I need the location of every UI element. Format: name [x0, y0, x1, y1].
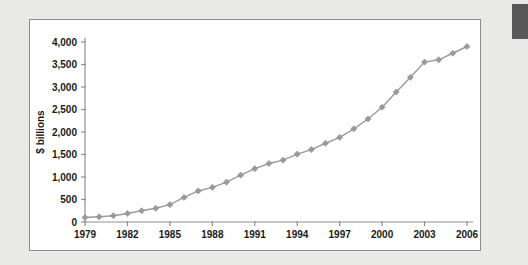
series-data-point — [322, 140, 328, 146]
series-data-point — [280, 157, 286, 163]
y-axis-tick-label: 500 — [60, 194, 77, 205]
series-data-point — [181, 194, 187, 200]
series-data-point — [110, 213, 116, 219]
series-data-point — [464, 43, 470, 49]
y-axis-title: $ billions — [35, 110, 46, 154]
y-axis-tick-label: 0 — [71, 217, 77, 228]
y-axis-tick-label: 1,500 — [52, 149, 77, 160]
x-axis-tick-label: 1979 — [74, 229, 97, 240]
series-data-point — [167, 202, 173, 208]
x-axis-tick-label: 1982 — [116, 229, 139, 240]
series-data-point — [266, 160, 272, 166]
series-data-point — [308, 146, 314, 152]
data-series-group — [82, 43, 470, 220]
y-axis-tick-label: 2,500 — [52, 104, 77, 115]
y-axis-title-text: $ billions — [35, 110, 46, 154]
series-data-point — [138, 208, 144, 214]
line-chart-svg: 05001,0001,5002,0002,5003,0003,5004,000 … — [30, 20, 480, 250]
x-axis-tick-label: 1988 — [201, 229, 224, 240]
y-axis-tick-label: 3,000 — [52, 82, 77, 93]
x-axis-tick-label: 1994 — [286, 229, 309, 240]
chart-figure-panel: 05001,0001,5002,0002,5003,0003,5004,000 … — [29, 19, 481, 251]
y-axis-tick-label: 4,000 — [52, 37, 77, 48]
series-data-point — [223, 179, 229, 185]
series-data-point — [82, 214, 88, 220]
chart-plot-area: 05001,0001,5002,0002,5003,0003,5004,000 … — [30, 20, 480, 250]
x-axis-tick-label: 1985 — [159, 229, 182, 240]
y-axis-tick-label: 1,000 — [52, 172, 77, 183]
series-data-point — [436, 57, 442, 63]
series-data-point — [124, 210, 130, 216]
page-background: 05001,0001,5002,0002,5003,0003,5004,000 … — [0, 0, 528, 265]
x-axis-tick-label: 2003 — [413, 229, 436, 240]
y-axis-tick-label: 2,000 — [52, 127, 77, 138]
series-data-point — [209, 184, 215, 190]
y-axis: 05001,0001,5002,0002,5003,0003,5004,000 — [52, 37, 86, 228]
series-data-point — [450, 50, 456, 56]
series-data-point — [195, 188, 201, 194]
page-corner-marker — [512, 4, 528, 39]
series-data-point — [238, 172, 244, 178]
x-axis-tick-label: 1997 — [329, 229, 352, 240]
series-data-point — [96, 214, 102, 220]
series-line — [85, 47, 467, 218]
x-axis-tick-label: 1991 — [244, 229, 267, 240]
series-data-point — [337, 134, 343, 140]
series-data-point — [252, 166, 258, 172]
series-data-point — [153, 205, 159, 211]
series-data-point — [294, 151, 300, 157]
x-axis: 1979198219851988199119941997200020032006 — [74, 221, 479, 240]
x-axis-tick-label: 2006 — [456, 229, 479, 240]
x-axis-tick-label: 2000 — [371, 229, 394, 240]
y-axis-tick-label: 3,500 — [52, 59, 77, 70]
